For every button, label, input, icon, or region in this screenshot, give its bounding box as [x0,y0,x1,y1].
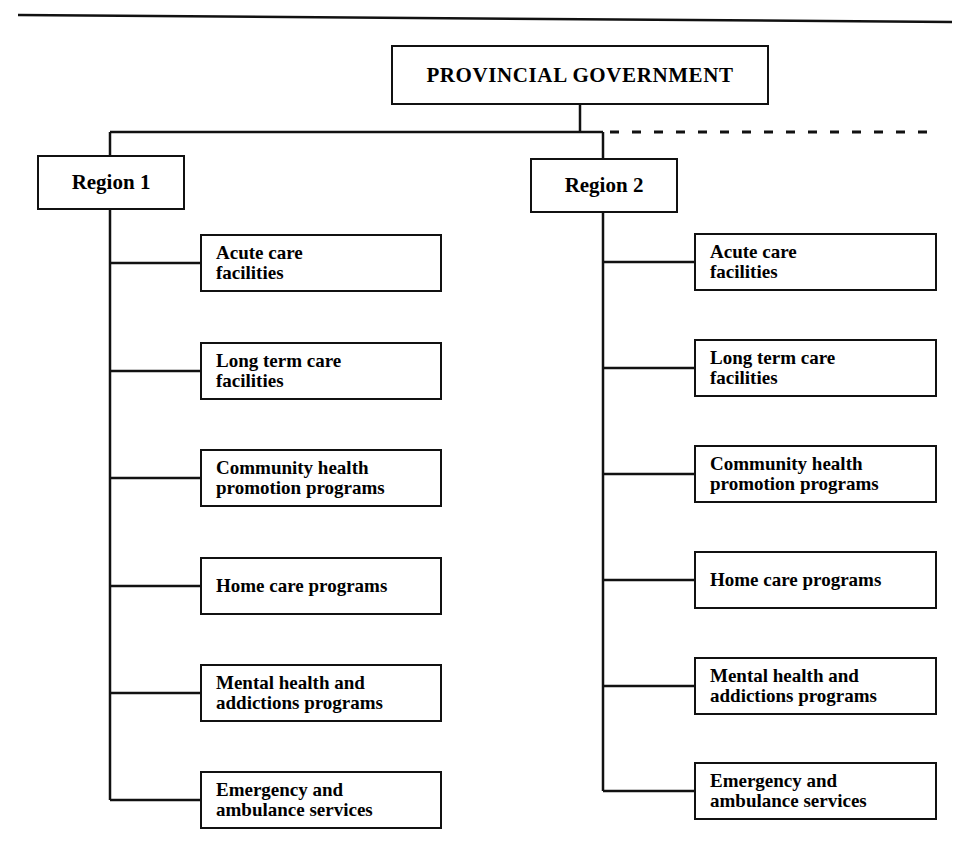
connector-lines [0,0,970,863]
node-region2-community-health-promotion-programs: Community health promotion programs [694,445,937,503]
node-label: Home care programs [710,570,881,590]
node-label: Emergency and ambulance services [710,771,867,811]
node-region2-long-term-care-facilities: Long term care facilities [694,339,937,397]
node-region-2: Region 2 [530,158,678,213]
node-label: Home care programs [216,576,387,596]
node-label: Acute care facilities [710,242,797,282]
node-label: Long term care facilities [216,351,341,391]
top-rule [18,15,952,22]
node-label: Mental health and addictions programs [710,666,877,706]
node-region1-long-term-care-facilities: Long term care facilities [200,342,442,400]
node-region2-mental-health-and-addictions-programs: Mental health and addictions programs [694,657,937,715]
node-region1-community-health-promotion-programs: Community health promotion programs [200,449,442,507]
node-region-1: Region 1 [37,155,185,210]
node-provincial-government: PROVINCIAL GOVERNMENT [391,45,769,105]
node-region1-emergency-and-ambulance-services: Emergency and ambulance services [200,771,442,829]
node-label: Long term care facilities [710,348,835,388]
node-label: Region 2 [565,173,644,198]
org-chart-diagram: PROVINCIAL GOVERNMENT Region 1 Region 2 … [0,0,970,863]
node-region2-home-care-programs: Home care programs [694,551,937,609]
node-label: Region 1 [72,170,151,195]
node-label: Mental health and addictions programs [216,673,383,713]
node-region1-acute-care-facilities: Acute care facilities [200,234,442,292]
node-region1-mental-health-and-addictions-programs: Mental health and addictions programs [200,664,442,722]
node-region2-acute-care-facilities: Acute care facilities [694,233,937,291]
node-label: Community health promotion programs [710,454,879,494]
node-label: PROVINCIAL GOVERNMENT [426,63,733,88]
node-label: Acute care facilities [216,243,303,283]
node-region1-home-care-programs: Home care programs [200,557,442,615]
node-region2-emergency-and-ambulance-services: Emergency and ambulance services [694,762,937,820]
node-label: Emergency and ambulance services [216,780,373,820]
node-label: Community health promotion programs [216,458,385,498]
